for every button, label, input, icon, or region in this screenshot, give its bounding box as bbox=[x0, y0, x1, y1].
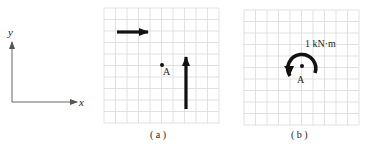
point-a-label-b: A bbox=[297, 74, 305, 85]
panel-a-caption: ( a ) bbox=[150, 129, 166, 141]
diagram-canvas: y x A ( a ) 1 kN·m A ( b ) bbox=[0, 0, 367, 151]
panel-a: A ( a ) bbox=[104, 8, 219, 141]
moment-label: 1 kN·m bbox=[305, 38, 336, 49]
coordinate-axes: y x bbox=[7, 26, 84, 108]
point-a-dot-b bbox=[300, 64, 304, 68]
panel-b: 1 kN·m A ( b ) bbox=[244, 10, 359, 141]
panel-b-caption: ( b ) bbox=[291, 129, 308, 141]
y-axis-label: y bbox=[7, 26, 13, 38]
point-a-label: A bbox=[163, 66, 171, 77]
x-axis-label: x bbox=[78, 96, 84, 108]
